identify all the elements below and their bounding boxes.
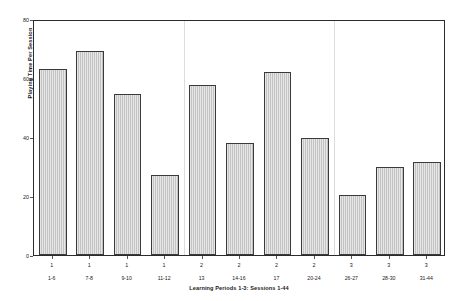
x-session-label: 9-10 [121, 275, 131, 281]
x-axis-title: Learning Periods 1-3: Sessions 1-44 [33, 285, 445, 291]
x-session-label: 13 [199, 275, 205, 281]
x-group-label: 2 [312, 262, 315, 268]
x-session-label: 28-30 [382, 275, 395, 281]
x-group-label: 1 [163, 262, 166, 268]
y-tick-label: 80 [23, 17, 29, 23]
x-tick-mark [351, 256, 352, 259]
x-tick-mark [239, 256, 240, 259]
y-axis-ticks: 020406080 [0, 0, 34, 301]
bar [76, 51, 104, 255]
x-group-label: 1 [88, 262, 91, 268]
group-separator [334, 21, 335, 255]
bar [114, 94, 142, 255]
x-tick-mark [314, 256, 315, 259]
x-group-label: 3 [425, 262, 428, 268]
x-session-label: 11-12 [158, 275, 171, 281]
y-tick-label: 20 [23, 194, 29, 200]
x-group-label: 2 [200, 262, 203, 268]
x-session-label: 17 [274, 275, 280, 281]
x-session-label: 1-6 [48, 275, 56, 281]
x-tick-mark [127, 256, 128, 259]
bar [39, 69, 67, 255]
plot-inner [34, 21, 444, 255]
group-separator [184, 21, 185, 255]
bar [189, 85, 217, 255]
x-group-label: 3 [350, 262, 353, 268]
x-group-label: 2 [275, 262, 278, 268]
x-tick-mark [426, 256, 427, 259]
x-group-label: 1 [125, 262, 128, 268]
x-tick-mark [202, 256, 203, 259]
bar [376, 167, 404, 256]
bar [339, 195, 367, 255]
bar [151, 175, 179, 255]
y-tick-label: 60 [23, 76, 29, 82]
bar [413, 162, 441, 255]
x-tick-mark [276, 256, 277, 259]
x-axis-ticks: 11-617-819-10111-12213214-16217220-24326… [33, 256, 445, 301]
x-session-label: 20-24 [307, 275, 320, 281]
x-tick-mark [389, 256, 390, 259]
x-tick-mark [89, 256, 90, 259]
x-session-label: 31-44 [420, 275, 433, 281]
y-tick-label: 40 [23, 135, 29, 141]
plot-area [33, 20, 445, 256]
x-tick-mark [52, 256, 53, 259]
bar [226, 143, 254, 255]
x-group-label: 3 [387, 262, 390, 268]
x-tick-mark [164, 256, 165, 259]
x-group-label: 1 [50, 262, 53, 268]
y-tick-label: 0 [26, 253, 29, 259]
bar [264, 72, 292, 255]
bar-chart: Playing Time Per Session 020406080 11-61… [0, 0, 453, 301]
bar [301, 138, 329, 255]
x-session-label: 7-8 [85, 275, 93, 281]
x-session-label: 26-27 [345, 275, 358, 281]
x-group-label: 2 [238, 262, 241, 268]
x-session-label: 14-16 [232, 275, 245, 281]
